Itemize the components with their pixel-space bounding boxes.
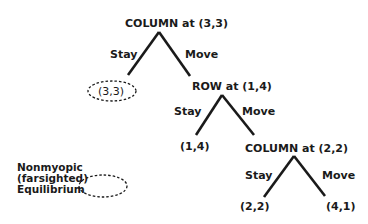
row-stay-label: Stay [174, 106, 201, 117]
row-move-label: Move [242, 106, 275, 117]
leaf-4-1: (4,1) [326, 201, 356, 212]
leaf-2-2: (2,2) [240, 201, 270, 212]
legend-label: Nonmyopic (farsighted) Equilibrium [17, 162, 88, 195]
leaf-3-3: (3,3) [98, 86, 124, 97]
root-move-label: Move [185, 49, 218, 60]
column-2-2-node-label: COLUMN at (2,2) [245, 143, 348, 154]
leaf-1-4: (1,4) [180, 141, 210, 152]
legend-line-3: Equilibrium [17, 184, 88, 195]
column-2-2-stay-label: Stay [245, 170, 272, 181]
column-2-2-move-label: Move [322, 170, 355, 181]
root-stay-label: Stay [110, 49, 137, 60]
root-node-label: COLUMN at (3,3) [125, 18, 228, 29]
row-node-label: ROW at (1,4) [192, 81, 272, 92]
